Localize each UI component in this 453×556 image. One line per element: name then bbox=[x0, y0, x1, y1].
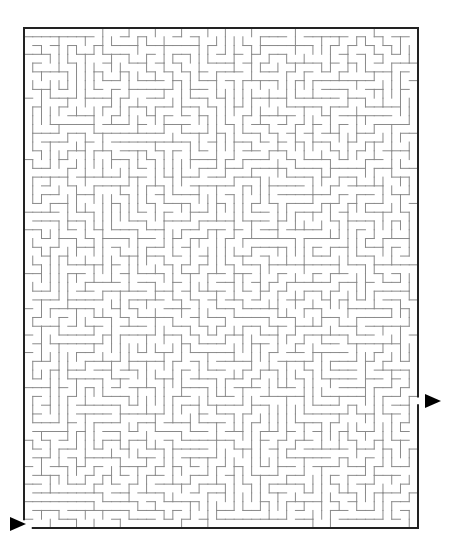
maze-border bbox=[24, 28, 418, 528]
entrance-arrow-icon bbox=[10, 517, 26, 531]
exit-arrow-icon bbox=[425, 394, 441, 408]
maze bbox=[0, 0, 453, 556]
maze-walls bbox=[24, 28, 418, 528]
